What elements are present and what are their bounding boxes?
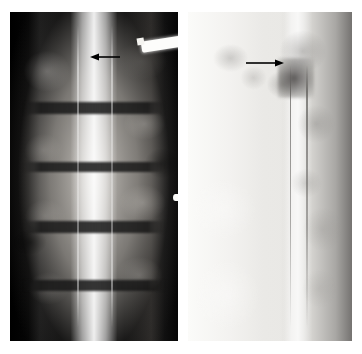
arrow-annotation-lateral xyxy=(244,56,286,70)
contrast-column-edge-right xyxy=(111,25,113,328)
contrast-column-edge-left xyxy=(77,25,79,328)
radiograph-figure xyxy=(0,0,362,354)
intervertebral-disc-space xyxy=(23,280,164,291)
arrow-annotation-ap xyxy=(88,50,122,64)
intervertebral-disc-space xyxy=(23,162,164,173)
film-edge-marker xyxy=(173,194,178,201)
intervertebral-disc-space xyxy=(23,221,164,233)
contrast-column-edge-anterior xyxy=(290,65,292,328)
intervertebral-disc-space xyxy=(23,102,164,113)
contrast-column-edge-posterior xyxy=(306,65,308,328)
